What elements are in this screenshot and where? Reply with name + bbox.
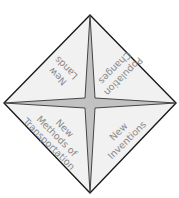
diamond-diagram: New Lands Population Changes New Methods… — [0, 0, 179, 198]
compass-star — [4, 15, 176, 193]
